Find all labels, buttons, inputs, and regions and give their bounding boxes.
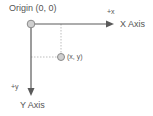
x-axis-label: X Axis [120, 20, 145, 29]
y-axis-arrowhead [28, 88, 35, 96]
x-direction-label: +x [107, 8, 115, 15]
point-node [58, 54, 65, 61]
y-direction-label: +y [11, 83, 19, 90]
y-axis-label: Y Axis [20, 101, 45, 110]
point-label: (x, y) [67, 53, 83, 60]
origin-node [27, 20, 35, 28]
x-axis-arrowhead [106, 21, 114, 28]
origin-label: Origin (0, 0) [9, 4, 57, 13]
